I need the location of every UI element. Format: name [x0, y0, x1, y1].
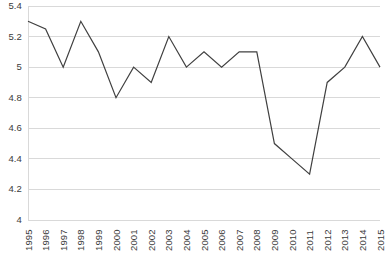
x-tick-label: 2006: [217, 229, 227, 251]
x-tick-label: 1997: [59, 229, 69, 251]
x-tick-label: 2004: [182, 229, 192, 251]
gridlines-group: [28, 6, 380, 220]
x-tick-label: 2009: [270, 229, 280, 251]
x-tick-label: 2013: [340, 229, 350, 251]
y-tick-label: 5.2: [0, 32, 22, 42]
x-tick-label: 1995: [24, 229, 34, 251]
chart-plot-area: [0, 0, 387, 261]
x-tick-label: 2003: [164, 229, 174, 251]
x-tick-label: 2008: [252, 229, 262, 251]
y-tick-label: 5.4: [0, 1, 22, 11]
y-tick-label: 4.6: [0, 123, 22, 133]
x-tick-label: 2002: [147, 229, 157, 251]
y-tick-label: 5: [0, 62, 22, 72]
x-tick-label: 1996: [41, 229, 51, 251]
x-tick-label: 2011: [305, 230, 315, 251]
line-chart: 44.24.44.64.855.25.4 1995199619971998199…: [0, 0, 387, 261]
x-tick-label: 2007: [235, 229, 245, 251]
x-tick-label: 1999: [94, 229, 104, 251]
x-tick-label: 2010: [288, 229, 298, 251]
y-tick-label: 4.8: [0, 93, 22, 103]
x-tick-label: 2012: [323, 229, 333, 251]
y-tick-label: 4.2: [0, 184, 22, 194]
x-tick-label: 2015: [376, 229, 386, 251]
x-tick-label: 2001: [129, 229, 139, 251]
x-tick-label: 2000: [112, 229, 122, 251]
y-tick-label: 4.4: [0, 154, 22, 164]
x-tick-label: 1998: [76, 229, 86, 251]
x-tick-label: 2005: [200, 229, 210, 251]
x-tick-label: 2014: [358, 229, 368, 251]
y-tick-label: 4: [0, 215, 22, 225]
